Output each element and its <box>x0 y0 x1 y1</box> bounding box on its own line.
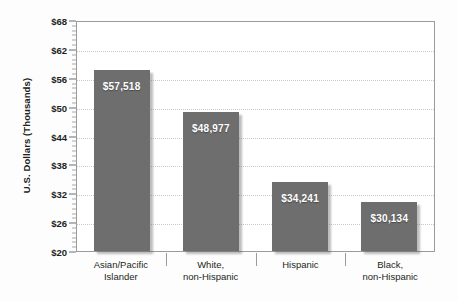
y-axis-major-tick <box>69 136 76 137</box>
bar-value-label: $30,134 <box>361 213 417 224</box>
y-axis-major-tick <box>69 252 76 253</box>
bar-value-label: $48,977 <box>183 123 239 134</box>
y-axis-major-tick <box>69 107 76 108</box>
x-axis-category-label: Black,non-Hispanic <box>345 256 435 296</box>
y-axis-tick-label: $32 <box>31 189 67 200</box>
plot-area: $57,518$48,977$34,241$30,134 <box>76 21 435 252</box>
y-axis-tick-label: $44 <box>31 131 67 142</box>
y-axis-major-tick <box>69 165 76 166</box>
bar-chart: U.S. Dollars (Thousands) $20$26$32$38$44… <box>0 0 458 301</box>
x-axis-category-label-line: Islander <box>76 271 166 283</box>
bar[interactable]: $34,241 <box>272 182 328 251</box>
y-axis-tick-label: $62 <box>31 44 67 55</box>
y-axis-tick-label: $68 <box>31 16 67 27</box>
category-separator-tick <box>345 253 346 266</box>
bar-value-label: $34,241 <box>272 193 328 204</box>
x-axis-category-label-line: non-Hispanic <box>345 271 435 283</box>
y-axis-major-tick <box>69 21 76 22</box>
bar[interactable]: $57,518 <box>94 70 150 251</box>
y-axis-major-tick <box>69 194 76 195</box>
y-axis-major-tick <box>69 223 76 224</box>
x-axis-category-label-line: Hispanic <box>256 259 346 271</box>
x-axis-category-label: Hispanic <box>256 256 346 296</box>
y-axis-tick-label: $26 <box>31 218 67 229</box>
bar-value-label: $57,518 <box>94 81 150 92</box>
y-axis-tick-label: $50 <box>31 102 67 113</box>
x-axis-category-label: White,non-Hispanic <box>166 256 256 296</box>
y-axis-tick-label: $38 <box>31 160 67 171</box>
y-axis-ruler <box>69 21 76 252</box>
y-axis-tick-label: $20 <box>31 247 67 258</box>
y-axis-tick-labels: $20$26$32$38$44$50$56$62$68 <box>31 0 67 301</box>
bar-category: $48,977 <box>166 22 255 251</box>
bar[interactable]: $30,134 <box>361 202 417 251</box>
x-axis-category-label-line: White, <box>166 259 256 271</box>
x-axis-category-label-line: Asian/Pacific <box>76 259 166 271</box>
bar-category: $34,241 <box>256 22 345 251</box>
bar[interactable]: $48,977 <box>183 112 239 251</box>
bar-category: $57,518 <box>77 22 166 251</box>
category-separator-tick <box>256 253 257 266</box>
y-axis-title: U.S. Dollars (Thousands) <box>21 46 32 226</box>
y-axis-tick-label: $56 <box>31 73 67 84</box>
x-axis-category-label-line: Black, <box>345 259 435 271</box>
y-axis-major-tick <box>69 78 76 79</box>
bar-category: $30,134 <box>345 22 434 251</box>
bar-series: $57,518$48,977$34,241$30,134 <box>77 22 434 251</box>
x-axis-category-label: Asian/PacificIslander <box>76 256 166 296</box>
y-axis-major-tick <box>69 49 76 50</box>
x-axis-category-label-line: non-Hispanic <box>166 271 256 283</box>
category-separator-tick <box>166 253 167 266</box>
